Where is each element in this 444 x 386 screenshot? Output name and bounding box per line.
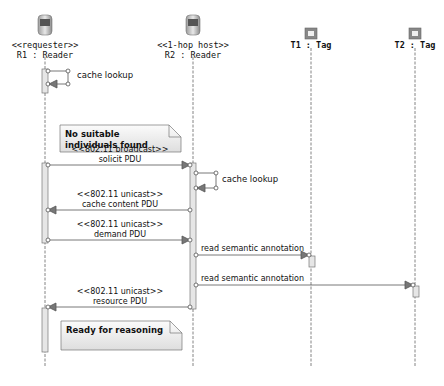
note-no-suitable-text: No suitable individuals found <box>61 126 161 152</box>
reader-device-icon <box>38 15 52 35</box>
message-name: demand PDU <box>60 230 180 240</box>
message-read-annotation-t1-label: read semantic annotation <box>201 244 304 254</box>
message-cache-content-pdu-label: <<802.11 unicast>> cache content PDU <box>60 190 180 210</box>
lifeline-r1-name: R1 : Reader <box>5 50 85 60</box>
message-name: resource PDU <box>60 297 180 307</box>
activation-bars <box>42 69 419 352</box>
lifeline-r1-header: <<requester>> R1 : Reader <box>5 40 85 60</box>
note-ready-for-reasoning-text: Ready for reasoning <box>62 322 168 342</box>
lifeline-t1-name: T1 : Tag <box>281 40 341 50</box>
lifeline-t2-header: T2 : Tag <box>385 40 444 50</box>
tag-icon <box>305 28 317 39</box>
lifeline-t2-name: T2 : Tag <box>385 40 444 50</box>
message-name: cache content PDU <box>60 200 180 210</box>
self-message-r1 <box>46 69 70 88</box>
tag-icon <box>409 28 421 39</box>
lifeline-t1-header: T1 : Tag <box>281 40 341 50</box>
reader-device-icon <box>186 15 200 35</box>
self-message-r2-label: cache lookup <box>222 174 278 184</box>
message-read-annotation-t2-label: read semantic annotation <box>201 274 304 284</box>
message-demand-pdu-label: <<802.11 unicast>> demand PDU <box>60 220 180 240</box>
lifeline-r1-stereotype: <<requester>> <box>5 40 85 50</box>
message-stereotype: <<802.11 unicast>> <box>60 287 180 297</box>
message-stereotype: <<802.11 unicast>> <box>60 220 180 230</box>
message-name: solicit PDU <box>60 155 180 165</box>
self-message-r1-label: cache lookup <box>77 70 133 80</box>
lifeline-r2-header: <<1-hop host>> R2 : Reader <box>148 40 238 60</box>
self-message-r2 <box>194 171 218 192</box>
message-stereotype: <<802.11 unicast>> <box>60 190 180 200</box>
lifeline-r2-stereotype: <<1-hop host>> <box>148 40 238 50</box>
lifeline-r2-name: R2 : Reader <box>148 50 238 60</box>
message-resource-pdu-label: <<802.11 unicast>> resource PDU <box>60 287 180 307</box>
